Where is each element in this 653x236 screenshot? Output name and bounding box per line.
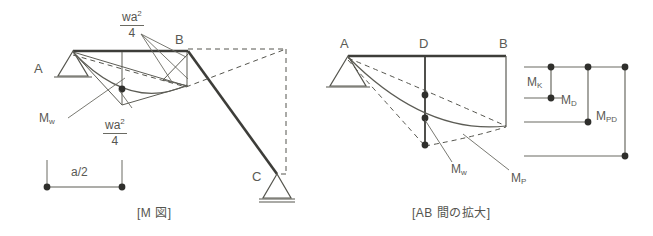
ab-detail-panel	[326, 56, 509, 170]
moment-label-mp-detail: MP	[511, 172, 526, 184]
fraction-denominator-top: 4	[120, 26, 144, 40]
scale-node-mpd-bottom	[622, 153, 629, 160]
moment-label-mpd-sub: PD	[606, 115, 617, 124]
node-label-b-left: B	[175, 33, 184, 46]
moment-label-mk-sub: K	[537, 81, 542, 90]
leader-line-bottom-fraction	[119, 90, 132, 108]
moment-label-mp-detail-sub: P	[521, 177, 526, 186]
caption-m-diagram: [M 図]	[137, 203, 172, 220]
point-d-lower	[422, 142, 429, 149]
scale-node-md-bottom	[585, 119, 592, 126]
mp-dashed-detail	[348, 58, 506, 146]
fraction-exponent-bottom: 2	[120, 117, 124, 126]
node-label-c-left: C	[252, 170, 261, 183]
fraction-denominator-bottom: 4	[103, 134, 127, 148]
moment-label-mw-detail-sub: w	[461, 168, 467, 177]
value-label-wa2-4-top: wa2 4	[120, 10, 144, 39]
fraction-numerator-bottom: wa2	[103, 118, 127, 134]
caption-ab-detail: [AB 間の拡大]	[412, 203, 491, 220]
fraction-numerator-top: wa2	[120, 10, 144, 26]
moment-label-mpd: MPD	[596, 110, 617, 122]
leader-line-mw-detail	[425, 120, 452, 162]
scale-node-mpd-top	[622, 64, 629, 71]
engineering-figure: A B C wa2 4 wa2 4 Mw a/2 [M 図] A D B Mw …	[0, 0, 653, 236]
fraction-exponent-top: 2	[137, 9, 141, 18]
scale-node-mk-bottom	[548, 95, 555, 102]
moment-label-mk: MK	[527, 76, 542, 88]
support-a	[54, 51, 92, 77]
support-c	[259, 174, 295, 202]
scale-node-md-top	[585, 64, 592, 71]
point-d-upper	[422, 92, 429, 99]
scale-node-mk-top	[548, 64, 555, 71]
diagram-canvas	[0, 0, 653, 236]
node-label-a-detail: A	[340, 37, 349, 50]
moment-label-mw-left: Mw	[39, 112, 55, 124]
node-label-d-detail: D	[419, 37, 428, 50]
node-label-b-detail: B	[499, 37, 508, 50]
dimension-label-a-over-2: a/2	[71, 166, 88, 178]
value-label-wa2-4-bottom: wa2 4	[103, 118, 127, 147]
moment-label-md: MD	[561, 94, 577, 106]
moment-label-mw-left-sub: w	[49, 117, 55, 126]
dashed-moment-lines	[73, 49, 286, 174]
node-label-a-left: A	[34, 62, 43, 75]
moment-label-mw-detail: Mw	[451, 163, 467, 175]
leader-line-mp-detail	[463, 134, 509, 170]
leader-line-mw-left	[68, 78, 125, 118]
moment-label-md-sub: D	[571, 99, 577, 108]
